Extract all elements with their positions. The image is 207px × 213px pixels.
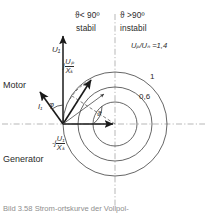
circle-diagram-figure: ϑ< 90º stabil ϑ >90º instabil Motor Gene… xyxy=(0,0,207,213)
label-j-up-xd-denominator: Xₖ xyxy=(65,67,75,75)
ring-label-middle: 1 xyxy=(150,73,154,81)
figure-caption-text: Bild 3.58 Strom-ortskurve der Vollpol- xyxy=(3,205,129,213)
label-i1: I₁ xyxy=(38,103,43,111)
diagram-canvas xyxy=(0,0,207,213)
ring-label-outer: Uₚ/Uₙ =1,4 xyxy=(131,42,167,50)
label-neg-j-u1-xd-denominator: Xₖ xyxy=(56,144,65,152)
label-j-up-xd: j Uₚ Xₖ xyxy=(63,58,74,74)
label-neg-j-u1-xd: -j U₁ Xₖ xyxy=(52,135,65,151)
vector-j-up-xd xyxy=(63,80,91,124)
label-theta: ϑ xyxy=(97,110,101,118)
stable-condition-label: ϑ< 90º xyxy=(75,11,100,19)
label-phi: φ xyxy=(49,101,54,109)
figure-caption-clipped: Bild 3.58 Strom-ortskurve der Vollpol- xyxy=(0,205,207,213)
generator-region-label: Generator xyxy=(3,155,44,164)
unstable-label: instabil xyxy=(120,24,147,32)
stable-label: stabil xyxy=(76,24,96,32)
unstable-condition-label: ϑ >90º xyxy=(120,11,145,19)
label-u1: U₁ xyxy=(52,46,60,54)
ring-label-inner: 0,6 xyxy=(139,93,150,101)
motor-region-label: Motor xyxy=(3,81,26,90)
